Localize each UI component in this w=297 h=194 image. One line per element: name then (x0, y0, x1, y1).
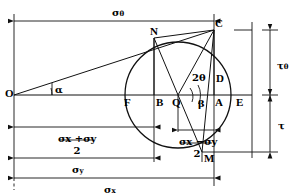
point-label-Q: Q (172, 96, 181, 108)
point-label-C: C (215, 17, 223, 29)
label-sigma-y-subscript: y (79, 166, 83, 175)
point-label-N: N (150, 25, 158, 37)
label-sigma-y: σy (72, 159, 83, 177)
point-label-D: D (216, 72, 224, 84)
label-sigma-x: σx (104, 179, 116, 194)
label-tau-theta: τθ (277, 55, 288, 73)
diagram-canvas (0, 0, 297, 194)
angle-label-alpha: α (55, 84, 63, 95)
label-sigma-theta: σθ (112, 2, 124, 20)
angle-label-beta: β (198, 98, 205, 109)
fraction-diff-denominator-wrap: 2 (179, 143, 215, 161)
point-label-A: A (215, 96, 223, 108)
label-tau-base: τ (278, 120, 285, 131)
fraction-sum-denominator-wrap: 2 (58, 140, 96, 158)
point-label-O: O (5, 87, 14, 99)
label-tau: τ (278, 115, 285, 133)
line-O-to-C (14, 30, 214, 95)
label-tau-theta-base: τ (277, 60, 284, 71)
label-sigma-x-subscript: x (111, 186, 115, 194)
line-N-to-C (154, 30, 214, 38)
dimension-tau-theta (234, 30, 278, 95)
label-sigma-theta-subscript: θ (119, 9, 124, 18)
fraction-sum-denominator: 2 (74, 145, 81, 156)
point-label-B: B (156, 96, 163, 108)
angle-label-2theta: 2θ (192, 72, 206, 83)
point-label-E: E (236, 96, 243, 108)
label-tau-theta-subscript: θ (284, 62, 289, 71)
fraction-diff-denominator: 2 (194, 148, 201, 159)
mohr-circle-diagram: O F B Q A E D C N M α 2θ β σθ τθ τ σx +σ… (0, 0, 297, 194)
point-label-F: F (124, 96, 131, 108)
